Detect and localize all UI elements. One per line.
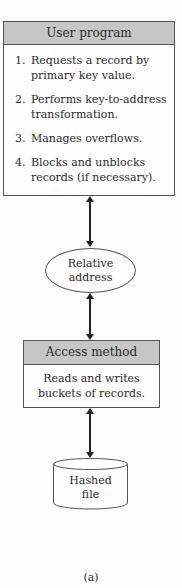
bidirectional-arrow-icon xyxy=(89,410,91,456)
figure-caption: (a) xyxy=(0,571,182,584)
relative-address-node: Relative address xyxy=(45,248,136,293)
step-item: 3. Manages overflows. xyxy=(4,131,174,146)
step-number: 3. xyxy=(15,131,26,146)
hashed-file-cylinder: Hashed file xyxy=(53,458,128,510)
step-number: 1. xyxy=(15,53,26,68)
step-number: 2. xyxy=(15,92,26,107)
step-item: 2. Performs key-to-address transformatio… xyxy=(4,92,174,122)
access-method-line1: Reads and writes xyxy=(24,371,159,386)
access-method-line2: buckets of records. xyxy=(24,386,159,401)
hashed-file-line1: Hashed xyxy=(53,474,128,488)
step-number: 4. xyxy=(15,155,26,170)
step-text: Manages overflows. xyxy=(31,132,142,145)
step-text: Blocks and unblocks records (if necessar… xyxy=(31,156,156,184)
step-text: Requests a record by primary key value. xyxy=(31,54,149,82)
hashed-file-label: Hashed file xyxy=(53,474,128,502)
bidirectional-arrow-icon xyxy=(89,295,91,338)
relative-address-line1: Relative xyxy=(68,257,114,271)
step-item: 1. Requests a record by primary key valu… xyxy=(4,53,174,83)
user-program-box: User program 1. Requests a record by pri… xyxy=(3,21,175,196)
user-program-title: User program xyxy=(4,22,174,45)
user-program-steps: 1. Requests a record by primary key valu… xyxy=(4,53,174,185)
relative-address-line2: address xyxy=(69,271,113,285)
access-method-box: Access method Reads and writes buckets o… xyxy=(23,340,160,408)
access-method-title: Access method xyxy=(24,341,159,365)
bidirectional-arrow-icon xyxy=(89,198,91,245)
access-method-description: Reads and writes buckets of records. xyxy=(24,365,159,401)
hashed-file-line2: file xyxy=(53,488,128,502)
step-item: 4. Blocks and unblocks records (if neces… xyxy=(4,155,174,185)
step-text: Performs key-to-address transformation. xyxy=(31,93,167,121)
